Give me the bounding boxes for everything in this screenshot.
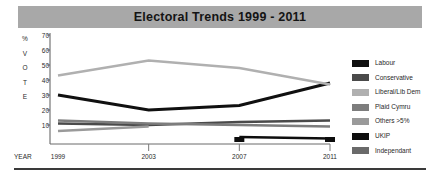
chart-screenshot: Electoral Trends 1999 - 2011 % V O T E 7… <box>0 0 440 175</box>
bottom-divider <box>14 168 426 170</box>
x-axis-tick-label: 2007 <box>232 153 246 160</box>
series-line <box>58 83 330 110</box>
legend-item: Labour <box>352 56 438 71</box>
ukip-marker <box>325 137 335 142</box>
ukip-marker <box>234 137 244 142</box>
legend-item: Independant <box>352 144 438 159</box>
legend-label: Independant <box>375 148 411 155</box>
series-line <box>58 61 330 85</box>
series-line <box>239 137 330 139</box>
x-axis-label: YEAR <box>14 153 32 160</box>
x-axis-tick-label: 1999 <box>51 153 65 160</box>
x-axis-tick-label: 2011 <box>323 153 337 160</box>
legend-label: Labour <box>375 60 395 67</box>
x-axis-row: YEAR 1999200320072011 <box>0 152 348 164</box>
legend-label: Others >5% <box>375 118 410 125</box>
chart-canvas <box>0 28 348 156</box>
legend-swatch <box>352 133 369 140</box>
chart-plot-area: % V O T E 70605040302010 YEAR 1999200320… <box>0 28 348 163</box>
legend-item: UKIP <box>352 129 438 144</box>
legend-swatch <box>352 147 369 154</box>
legend-item: Liberal/Lib Dem <box>352 85 438 100</box>
legend-swatch <box>352 74 369 81</box>
legend-label: Conservative <box>375 75 413 82</box>
legend-swatch <box>352 118 369 125</box>
legend-label: Liberal/Lib Dem <box>375 89 421 96</box>
legend-swatch <box>352 104 369 111</box>
chart-title-banner: Electoral Trends 1999 - 2011 <box>18 6 422 28</box>
page-title: Electoral Trends 1999 - 2011 <box>134 10 306 24</box>
legend-swatch <box>352 60 369 67</box>
series-line <box>58 127 149 132</box>
legend-item: Others >5% <box>352 114 438 129</box>
legend-label: UKIP <box>375 133 390 140</box>
legend-item: Plaid Cymru <box>352 100 438 115</box>
x-axis-tick-label: 2003 <box>141 153 155 160</box>
legend-swatch <box>352 89 369 96</box>
chart-legend: LabourConservativeLiberal/Lib DemPlaid C… <box>352 56 438 158</box>
legend-item: Conservative <box>352 71 438 86</box>
legend-label: Plaid Cymru <box>375 104 410 111</box>
